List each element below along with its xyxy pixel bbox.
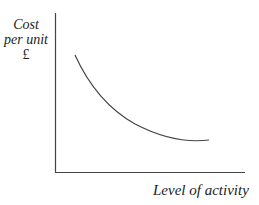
chart-canvas xyxy=(0,0,259,205)
cost-curve xyxy=(75,55,209,141)
x-axis-label: Level of activity xyxy=(153,182,249,199)
